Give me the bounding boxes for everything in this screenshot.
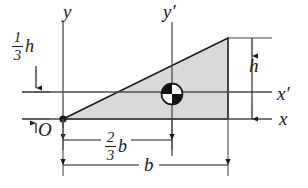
- dim-b-label: b: [139, 155, 159, 174]
- y-prime-axis-label: y′: [163, 2, 176, 21]
- fraction-numerator: 2: [106, 130, 116, 145]
- x-axis-label: x: [279, 109, 287, 128]
- fraction-denominator: 3: [13, 48, 23, 63]
- dim-third-h-symbol: h: [25, 36, 34, 57]
- fraction-denominator: 3: [106, 148, 116, 163]
- dim-h-label: h: [249, 56, 259, 75]
- triangle-shape: [63, 38, 228, 119]
- x-prime-axis-label: x′: [277, 84, 290, 103]
- dim-two-thirds-b-label: 2 3 b: [101, 130, 131, 163]
- dim-third-h-label: 1 3 h: [12, 30, 34, 63]
- origin-label: O: [38, 120, 52, 139]
- fraction-numerator: 1: [13, 30, 23, 45]
- fraction-one-third: 1 3: [12, 30, 23, 63]
- centroid-figure: y y′ x′ x O h b 1 3 h 2 3 b: [0, 0, 308, 188]
- dim-two-thirds-b-symbol: b: [118, 136, 127, 157]
- y-axis-label: y: [63, 2, 71, 21]
- centroid-marker: [162, 84, 183, 105]
- fraction-two-thirds: 2 3: [105, 130, 116, 163]
